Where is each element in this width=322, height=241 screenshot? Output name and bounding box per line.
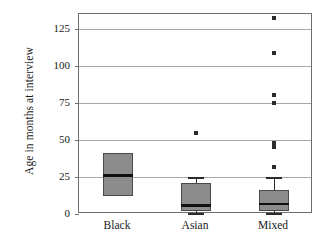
whisker-cap-upper xyxy=(266,177,283,179)
outlier-point xyxy=(272,93,276,97)
outlier-point xyxy=(194,131,198,135)
box-iqr xyxy=(259,190,289,211)
outlier-point xyxy=(272,51,276,55)
y-axis-tick-label: 25 xyxy=(30,170,70,182)
y-axis-tick-label: 0 xyxy=(30,207,70,219)
outlier-point xyxy=(272,141,276,145)
plot-area xyxy=(78,13,312,213)
outlier-point xyxy=(272,165,276,169)
y-axis-tick-label: 75 xyxy=(30,96,70,108)
y-axis-tick-mark xyxy=(75,177,79,178)
y-axis-tick-mark xyxy=(75,29,79,30)
outlier-point xyxy=(272,101,276,105)
x-axis-tick-label: Mixed xyxy=(233,219,313,231)
median-line xyxy=(181,204,211,207)
y-axis-tick-mark xyxy=(75,103,79,104)
median-line xyxy=(103,174,133,177)
x-axis-tick-label: Black xyxy=(77,219,157,231)
box-group-mixed xyxy=(235,14,313,212)
y-axis-tick-label: 125 xyxy=(30,22,70,34)
outlier-point xyxy=(272,16,276,20)
x-axis-tick-label: Asian xyxy=(155,219,235,231)
whisker-cap-lower xyxy=(188,213,205,215)
y-axis-tick-mark xyxy=(75,66,79,67)
y-axis-tick-mark xyxy=(75,140,79,141)
whisker-cap-upper xyxy=(188,177,205,179)
box-group-black xyxy=(79,14,157,212)
box-group-asian xyxy=(157,14,235,212)
y-axis-tick-label: 50 xyxy=(30,133,70,145)
outlier-point xyxy=(272,145,276,149)
y-axis-tick-label: 100 xyxy=(30,59,70,71)
boxplot-figure: Age in months at interview 0255075100125… xyxy=(0,0,322,241)
box-iqr xyxy=(181,183,211,211)
median-line xyxy=(259,203,289,206)
y-axis-tick-mark xyxy=(75,214,79,215)
whisker-cap-lower xyxy=(266,213,283,215)
